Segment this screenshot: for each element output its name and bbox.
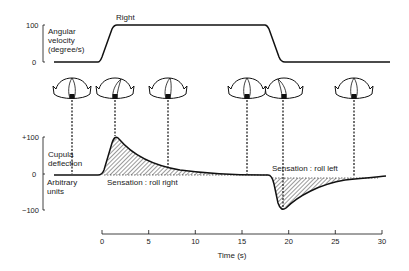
- units-line2: units: [47, 187, 64, 196]
- top-ylabel-line2: velocity: [48, 36, 75, 45]
- time-tick-0: 0: [100, 237, 104, 246]
- bottom-panel: +100 0 −100 Cupula deflection Arbitrary …: [22, 133, 386, 215]
- bottom-y-axis: [43, 137, 45, 210]
- time-tick-20: 20: [285, 237, 293, 246]
- top-y-tick-0: 0: [32, 58, 36, 67]
- bottom-ylabel-line1: Cupula: [48, 150, 74, 159]
- time-tick-15: 15: [238, 237, 246, 246]
- canal-decay-right-icon: [149, 78, 187, 99]
- sensation-roll-right-label: Sensation : roll right: [107, 178, 178, 187]
- bottom-y-tick-0: 0: [32, 170, 36, 179]
- time-tick-25: 25: [331, 237, 339, 246]
- top-panel: 100 0 Angular velocity (degree/s) Right: [26, 13, 390, 67]
- top-y-tick-100: 100: [26, 21, 39, 30]
- canal-rest-constant-icon: [228, 78, 266, 99]
- top-ylabel-line3: (degree/s): [48, 45, 85, 54]
- units-line1: Arbitrary: [47, 178, 77, 187]
- direction-label: Right: [116, 13, 135, 22]
- angular-velocity-line: [54, 25, 390, 62]
- time-axis: 0 5 10 15 20 25 30 Time (s): [100, 230, 386, 260]
- canal-rest-before-icon: [53, 78, 91, 99]
- time-axis-label: Time (s): [217, 251, 246, 260]
- bottom-y-tick-minus100: −100: [22, 206, 39, 215]
- time-tick-5: 5: [147, 237, 151, 246]
- top-ylabel-line1: Angular: [48, 27, 76, 36]
- canal-peak-right-icon: [96, 78, 134, 99]
- canal-icons: [53, 78, 373, 99]
- sensation-roll-left-label: Sensation : roll left: [272, 164, 339, 173]
- canal-rest-after-icon: [335, 78, 373, 99]
- vestibular-diagram: 100 0 Angular velocity (degree/s) Right: [0, 0, 409, 271]
- time-tick-30: 30: [378, 237, 386, 246]
- bottom-y-tick-plus100: +100: [22, 133, 39, 142]
- bottom-ylabel-line2: deflection: [48, 159, 82, 168]
- roll-right-area: [100, 138, 268, 175]
- roll-left-area: [270, 178, 378, 209]
- canal-peak-left-icon: [265, 78, 303, 99]
- top-y-axis: [43, 25, 45, 62]
- time-tick-10: 10: [191, 237, 199, 246]
